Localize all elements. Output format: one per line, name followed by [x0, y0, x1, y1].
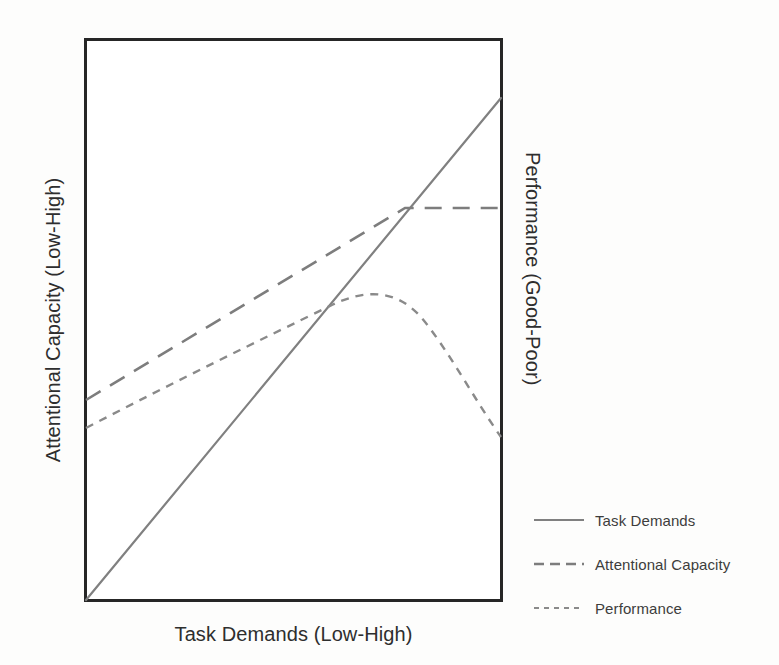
- legend-swatch-solid-icon: [533, 513, 585, 527]
- legend-label-performance: Performance: [595, 600, 682, 617]
- legend-label-attentional-capacity: Attentional Capacity: [595, 556, 730, 573]
- y-axis-left-title: Attentional Capacity (Low-High): [38, 38, 68, 602]
- legend-item-attentional-capacity: Attentional Capacity: [533, 542, 779, 586]
- plot-lines: [84, 38, 503, 602]
- legend-label-task-demands: Task Demands: [595, 512, 695, 529]
- legend-swatch-short-dash-icon: [533, 601, 585, 615]
- x-axis-title: Task Demands (Low-High): [84, 620, 503, 648]
- chart-legend: Task Demands Attentional Capacity Perfor…: [533, 498, 779, 630]
- legend-item-task-demands: Task Demands: [533, 498, 779, 542]
- legend-swatch-long-dash-icon: [533, 557, 585, 571]
- chart-figure: Attentional Capacity (Low-High) Performa…: [0, 0, 779, 665]
- legend-item-performance: Performance: [533, 586, 779, 630]
- series-line-performance: [86, 294, 501, 437]
- series-line-attentional-capacity: [86, 208, 501, 400]
- series-line-task-demands: [86, 98, 501, 600]
